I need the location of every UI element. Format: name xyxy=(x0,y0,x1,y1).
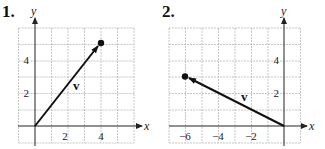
graph-2-vector xyxy=(189,78,284,126)
graph-2-x-tick: −6 xyxy=(179,130,191,142)
graph-1-vector xyxy=(35,46,98,126)
graph-1-y-tick: 2 xyxy=(24,87,30,99)
graph-1-vector-label: v xyxy=(73,78,80,93)
graph-1-y-label: y xyxy=(30,4,37,18)
graph-1-vector-endpoint xyxy=(98,40,104,46)
graph-1-x-tick: 2 xyxy=(62,130,68,142)
graph-2-y-tick: 4 xyxy=(274,54,280,66)
graph-2-y-tick: 2 xyxy=(274,87,280,99)
graph-2-vector-endpoint xyxy=(182,73,188,79)
graph-1: x y 2 4 2 4 v xyxy=(18,4,150,146)
graph-2-x-tick: −4 xyxy=(212,130,224,142)
graph-2-x-tick: −2 xyxy=(245,130,257,142)
graph-1-x-tick: 4 xyxy=(98,130,104,142)
graph-1-x-label: x xyxy=(143,119,150,133)
graph-2-y-label: y xyxy=(280,4,287,18)
vector-diagrams: x y 2 4 2 4 v x y − xyxy=(0,0,325,149)
graph-2-vector-label: v xyxy=(241,89,248,104)
graph-2: x y −6 −4 −2 2 4 v xyxy=(169,4,315,146)
graph-2-x-label: x xyxy=(308,119,315,133)
graph-1-y-tick: 4 xyxy=(24,54,30,66)
